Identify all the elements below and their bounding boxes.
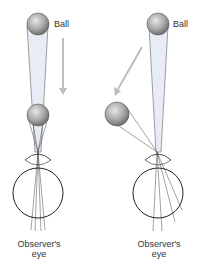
- right-light-cone: [149, 26, 168, 152]
- left-eye-label-line2: eye: [8, 249, 70, 259]
- left-ball-start: [27, 13, 49, 35]
- right-eye-label: Observer's eye: [128, 239, 190, 259]
- left-light-cone: [27, 26, 48, 152]
- right-peripheral-rays: [110, 108, 182, 231]
- right-ball-peripheral: [105, 102, 129, 126]
- left-ball-near: [27, 104, 49, 126]
- right-eye-label-line2: eye: [128, 249, 190, 259]
- right-panel: [105, 13, 183, 231]
- right-eye-label-line1: Observer's: [128, 239, 190, 249]
- down-arrow-icon: [59, 38, 67, 95]
- right-eye-icon: [133, 154, 183, 218]
- diagram-canvas: [0, 0, 203, 275]
- right-ball-start: [147, 13, 169, 35]
- diagonal-arrow-icon: [114, 47, 142, 96]
- right-ball-label: Ball: [173, 19, 188, 29]
- left-eye-label-line1: Observer's: [8, 239, 70, 249]
- left-panel: [13, 13, 67, 231]
- left-ball-label: Ball: [54, 19, 69, 29]
- left-eye-icon: [13, 154, 63, 218]
- left-eye-label: Observer's eye: [8, 239, 70, 259]
